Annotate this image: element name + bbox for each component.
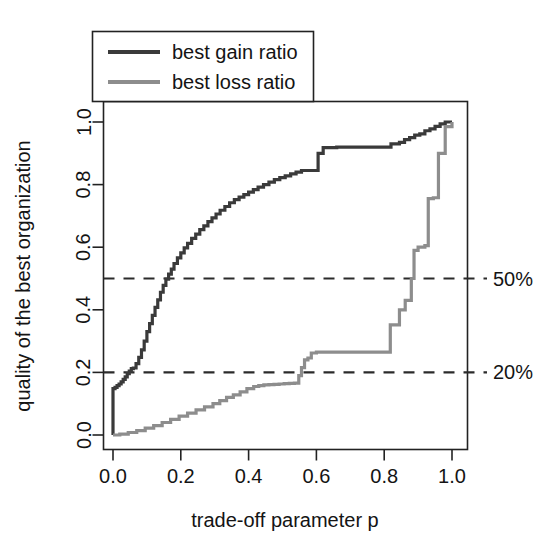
x-tick-label-1: 0.2 (167, 465, 195, 487)
annotation-50-percent-line: 50% (493, 268, 533, 290)
chart-canvas: 0.00.20.40.60.81.0 0.00.20.40.60.81.0 50… (0, 0, 541, 546)
x-tick-label-0: 0.0 (99, 465, 127, 487)
chart-legend: best gain ratio best loss ratio (93, 32, 314, 102)
x-tick-label-2: 0.4 (235, 465, 263, 487)
x-tick-label-5: 1.0 (438, 465, 466, 487)
legend-label-best-loss-ratio: best loss ratio (172, 71, 295, 93)
y-tick-label-4: 0.8 (73, 171, 95, 199)
y-tick-label-3: 0.6 (73, 233, 95, 261)
legend-label-best-gain-ratio: best gain ratio (172, 41, 298, 63)
x-tick-label-3: 0.6 (302, 465, 330, 487)
y-tick-label-1: 0.2 (73, 358, 95, 386)
y-tick-label-5: 1.0 (73, 108, 95, 136)
y-tick-label-0: 0.0 (73, 421, 95, 449)
x-axis-title: trade-off parameter p (191, 509, 379, 531)
y-axis-title: quality of the best organization (12, 140, 34, 411)
chart-figure: 0.00.20.40.60.81.0 0.00.20.40.60.81.0 50… (0, 0, 541, 546)
x-tick-label-4: 0.8 (370, 465, 398, 487)
y-tick-label-2: 0.4 (73, 296, 95, 324)
annotation-20-percent-line: 20% (493, 361, 533, 383)
